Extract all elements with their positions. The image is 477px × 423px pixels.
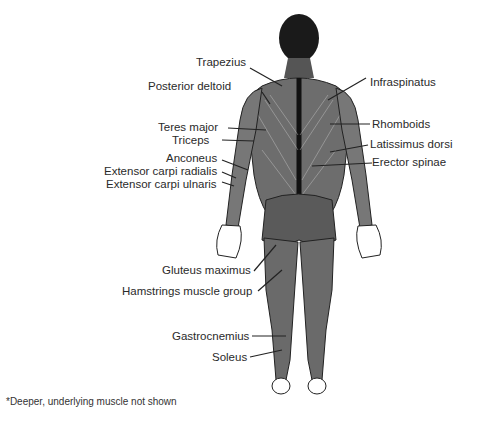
footnote: *Deeper, underlying muscle not shown bbox=[6, 396, 177, 407]
left-leg bbox=[264, 238, 298, 380]
label-extensor-carpi-radialis: Extensor carpi radialis bbox=[104, 165, 217, 178]
label-hamstrings: Hamstrings muscle group bbox=[122, 285, 252, 298]
label-latissimus-dorsi: Latissimus dorsi bbox=[370, 138, 452, 151]
label-teres-major: Teres major bbox=[158, 121, 218, 134]
label-erector-spinae: Erector spinae bbox=[372, 156, 446, 169]
label-posterior-deltoid: Posterior deltoid bbox=[148, 80, 231, 93]
label-trapezius: Trapezius bbox=[196, 56, 246, 69]
label-extensor-carpi-ulnaris: Extensor carpi ulnaris bbox=[106, 178, 217, 191]
gluteus bbox=[262, 194, 336, 245]
label-gastrocnemius: Gastrocnemius bbox=[172, 330, 249, 343]
label-infraspinatus: Infraspinatus bbox=[370, 76, 436, 89]
label-soleus: Soleus bbox=[212, 351, 247, 364]
label-triceps: Triceps bbox=[172, 134, 209, 147]
label-rhomboids: Rhomboids bbox=[372, 118, 430, 131]
head bbox=[279, 14, 319, 62]
label-gluteus-maximus: Gluteus maximus bbox=[162, 264, 251, 277]
right-leg bbox=[300, 238, 334, 380]
label-anconeus: Anconeus bbox=[166, 152, 217, 165]
